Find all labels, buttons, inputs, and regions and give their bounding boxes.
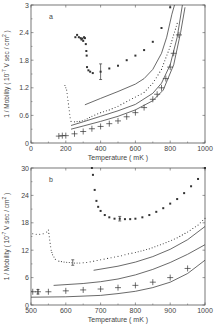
data-point-dot bbox=[83, 262, 84, 263]
data-point-dot bbox=[55, 259, 56, 260]
y-tick-label: 0.6 bbox=[19, 112, 29, 119]
data-point-dot bbox=[175, 29, 176, 30]
data-point-dot bbox=[68, 107, 69, 108]
data-point-square bbox=[204, 167, 206, 169]
data-point-square bbox=[86, 66, 88, 68]
panel-a-chart: 0200400600800100000.61.21.82.43Temperatu… bbox=[1, 2, 213, 163]
data-point-dot bbox=[135, 252, 136, 253]
fit-curve bbox=[85, 5, 175, 105]
data-point-dot bbox=[36, 234, 37, 235]
data-point-dot bbox=[160, 244, 161, 245]
data-point-dot bbox=[53, 257, 54, 258]
data-point-square bbox=[104, 214, 106, 216]
y-tick-label: 1.2 bbox=[19, 84, 29, 91]
x-tick-label: 200 bbox=[60, 145, 72, 152]
data-point-dot bbox=[177, 23, 178, 24]
data-point-dot bbox=[163, 63, 164, 64]
data-point-dot bbox=[154, 80, 155, 81]
data-point-dot bbox=[140, 250, 141, 251]
data-point-dot bbox=[93, 261, 94, 262]
data-point-dot bbox=[110, 257, 111, 258]
data-point-square bbox=[126, 59, 128, 61]
data-point-dot bbox=[106, 110, 107, 111]
data-point-square bbox=[108, 67, 110, 69]
data-point-dot bbox=[97, 113, 98, 114]
data-point-dot bbox=[165, 57, 166, 58]
data-point-dot bbox=[171, 40, 172, 41]
data-point-dot bbox=[117, 256, 118, 257]
data-point-square bbox=[197, 178, 199, 180]
data-point-dot bbox=[200, 222, 201, 223]
data-point-dot bbox=[171, 43, 172, 44]
data-point-dot bbox=[173, 34, 174, 35]
data-point-dot bbox=[157, 74, 158, 75]
x-tick-label: 900 bbox=[164, 307, 176, 314]
data-point-dot bbox=[166, 54, 167, 55]
data-point-dot bbox=[182, 234, 183, 235]
data-point-dot bbox=[94, 115, 95, 116]
data-point-square bbox=[161, 27, 163, 29]
data-point-square bbox=[134, 218, 136, 220]
data-point-dot bbox=[100, 112, 101, 113]
data-point-dot bbox=[79, 121, 80, 122]
data-point-dot bbox=[197, 225, 198, 226]
y-tick-label: 30 bbox=[21, 165, 29, 172]
data-point-square bbox=[129, 218, 131, 220]
y-tick-label: 1.8 bbox=[19, 57, 29, 64]
data-point-dot bbox=[132, 98, 133, 99]
plot-frame bbox=[31, 168, 205, 305]
data-point-dot bbox=[129, 100, 130, 101]
data-point-dot bbox=[77, 262, 78, 263]
data-point-dot bbox=[46, 231, 47, 232]
y-tick-label: 2.4 bbox=[19, 29, 29, 36]
data-point-dot bbox=[164, 60, 165, 61]
data-point-dot bbox=[49, 236, 50, 237]
data-point-dot bbox=[112, 108, 113, 109]
data-point-square bbox=[74, 36, 76, 38]
x-tick-label: 800 bbox=[130, 307, 142, 314]
data-point-dot bbox=[121, 255, 122, 256]
data-point-square bbox=[92, 72, 94, 74]
fit-curve bbox=[71, 5, 182, 126]
data-point-dot bbox=[161, 69, 162, 70]
data-point-square bbox=[141, 216, 143, 218]
data-point-dot bbox=[48, 233, 49, 234]
y-axis-label: 1 / Mobility ( 10-7 V sec / cm2 ) bbox=[1, 30, 11, 117]
data-point-dot bbox=[69, 110, 70, 111]
data-point-dot bbox=[84, 119, 85, 120]
data-point-dot bbox=[70, 117, 71, 118]
data-point-square bbox=[152, 41, 154, 43]
y-tick-label: 6 bbox=[25, 274, 29, 281]
data-point-square bbox=[92, 174, 94, 176]
data-point-square bbox=[89, 71, 91, 73]
x-tick-label: 1000 bbox=[197, 307, 213, 314]
y-tick-label: 12 bbox=[21, 247, 29, 254]
data-point-dot bbox=[172, 37, 173, 38]
y-tick-label: 0 bbox=[25, 302, 29, 309]
data-point-dot bbox=[74, 121, 75, 122]
y-tick-label: 24 bbox=[21, 192, 29, 199]
data-point-dot bbox=[71, 262, 72, 263]
data-point-dot bbox=[52, 254, 53, 255]
data-point-square bbox=[183, 192, 185, 194]
data-point-dot bbox=[66, 90, 67, 91]
data-point-dot bbox=[163, 243, 164, 244]
data-point-dot bbox=[123, 103, 124, 104]
data-point-dot bbox=[50, 243, 51, 244]
data-point-dot bbox=[32, 233, 33, 234]
data-point-dot bbox=[131, 253, 132, 254]
data-point-square bbox=[108, 216, 110, 218]
data-point-square bbox=[97, 206, 99, 208]
x-tick-label: 1000 bbox=[197, 145, 213, 152]
data-point-dot bbox=[149, 248, 150, 249]
data-point-dot bbox=[115, 107, 116, 108]
data-point-dot bbox=[174, 239, 175, 240]
data-point-dot bbox=[64, 85, 65, 86]
data-point-dot bbox=[187, 231, 188, 232]
data-point-dot bbox=[179, 236, 180, 237]
data-point-dot bbox=[157, 245, 158, 246]
x-tick-label: 600 bbox=[130, 145, 142, 152]
x-tick-label: 800 bbox=[164, 145, 176, 152]
series-group bbox=[30, 167, 206, 297]
data-point-dot bbox=[135, 96, 136, 97]
